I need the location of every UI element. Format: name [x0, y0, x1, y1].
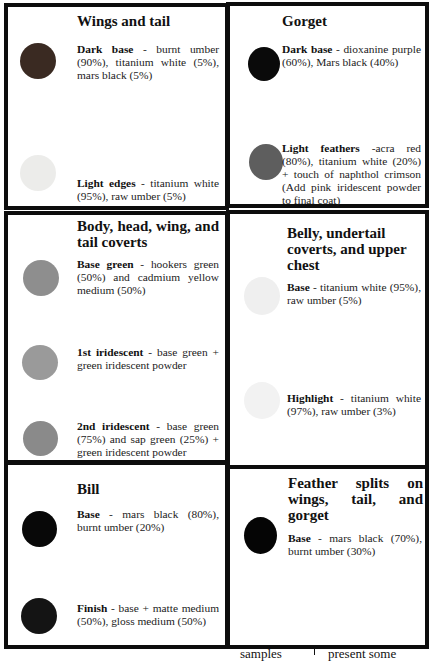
paint-swatch-2nd-iridescent	[23, 421, 58, 456]
paint-swatch-light-edges	[20, 155, 56, 191]
paint-entry: 1st iridescent - base green + green irid…	[77, 346, 219, 372]
paint-swatch-light-feathers	[249, 144, 283, 180]
paint-entry: 2nd iridescent - base green (75%) and sa…	[77, 420, 219, 459]
paint-name: Dark base	[282, 43, 332, 55]
paint-swatch-finish	[21, 598, 57, 634]
panel-title: Body, head, wing, and tail coverts	[77, 218, 219, 250]
paint-name: Base	[77, 508, 100, 520]
paint-swatch-base-green	[23, 260, 59, 296]
panel-title: Feather splits on wings, tail, and gorge…	[288, 475, 423, 523]
paint-swatch-base	[244, 277, 280, 315]
paint-entry: Dark base - dioxanine purple (60%), Mars…	[282, 43, 421, 69]
paint-name: Base green	[77, 258, 134, 270]
paint-name: Light feathers	[282, 142, 360, 154]
column-divider	[314, 649, 315, 655]
paint-name: Base	[287, 281, 310, 293]
paint-swatch-base	[22, 511, 57, 547]
paint-name: 2nd iridescent	[77, 420, 150, 432]
footer-text-fragment: present some	[328, 646, 396, 662]
paint-entry: Base - mars black (70%), burnt umber (30…	[288, 532, 422, 558]
paint-entry: Base - titanium white (95%), raw umber (…	[287, 281, 421, 307]
paint-swatch-highlight	[244, 382, 280, 419]
paint-entry: Base green - hookers green (50%) and cad…	[77, 258, 219, 297]
panel-title: Gorget	[282, 13, 422, 29]
paint-swatch-dark-base	[248, 47, 280, 81]
paint-name: Dark base	[77, 43, 133, 55]
paint-entry: Light edges - titanium white (95%), raw …	[77, 177, 219, 203]
paint-entry: Dark base - burnt umber (90%), titanium …	[77, 43, 219, 82]
footer-text-fragment: samples	[240, 646, 282, 662]
paint-entry: Highlight - titanium white (97%), raw um…	[287, 392, 421, 418]
paint-name: Finish	[77, 602, 107, 614]
paint-name: 1st iridescent	[77, 346, 143, 358]
paint-name: Base	[288, 532, 311, 544]
paint-name: Highlight	[287, 392, 333, 404]
paint-swatch-dark-base	[20, 43, 56, 79]
paint-entry: Light feathers -acra red (80%), titanium…	[282, 142, 421, 207]
panel-title: Wings and tail	[77, 13, 217, 29]
paint-swatch-base	[244, 517, 277, 554]
paint-entry: Base - mars black (80%), burnt umber (20…	[77, 508, 219, 534]
paint-name: Light edges	[77, 177, 136, 189]
paint-entry: Finish - base + matte medium (50%), glos…	[77, 602, 219, 628]
paint-swatch-1st-iridescent	[22, 345, 58, 380]
panel-title: Belly, undertail coverts, and upper ches…	[287, 225, 423, 273]
panel-title: Bill	[77, 481, 217, 497]
